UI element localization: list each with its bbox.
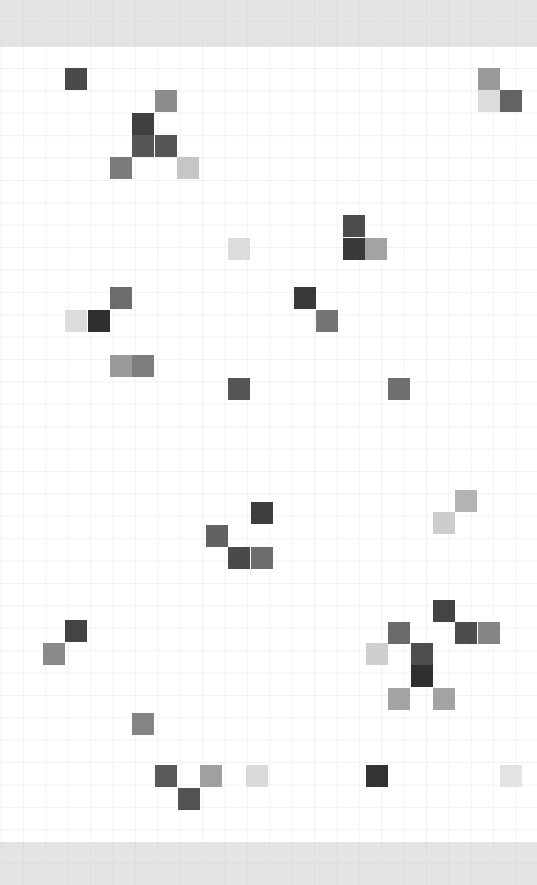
heatmap-cell [455,490,477,512]
heatmap-cell [433,600,455,622]
heatmap-cell [110,287,132,309]
heatmap-cell [365,238,387,260]
heatmap-cell [316,310,338,332]
heatmap-cell [500,90,522,112]
gridlines [0,47,537,842]
top-band-gridlines [0,0,537,47]
heatmap-cell [177,157,199,179]
heatmap-cell [43,643,65,665]
heatmap-cell [155,90,177,112]
heatmap-cell [110,157,132,179]
heatmap-cell [228,547,250,569]
heatmap-cell [251,502,273,524]
heatmap-cell [132,355,154,377]
heatmap-cell [132,113,154,135]
heatmap-cell [478,68,500,90]
heatmap-cell [388,378,410,400]
heatmap-cell [500,765,522,787]
heatmap-cell [294,287,316,309]
heatmap-cell [411,643,433,665]
heatmap-cell [65,620,87,642]
bottom-band [0,842,537,885]
heatmap-cell [411,665,433,687]
heatmap-cell [65,310,87,332]
heatmap-cell [155,765,177,787]
top-band [0,0,537,47]
heatmap-cell [88,310,110,332]
heatmap-cell [178,788,200,810]
heatmap-cell [228,378,250,400]
heatmap-cell [343,238,365,260]
heatmap-cell [200,765,222,787]
heatmap-cell [110,355,132,377]
heatmap-cell [478,90,500,112]
heatmap-cell [455,622,477,644]
heatmap-cell [433,512,455,534]
heatmap-cell [366,765,388,787]
heatmap-cell [65,68,87,90]
heatmap-cell [366,643,388,665]
heatmap-cell [433,688,455,710]
heatmap-cell [388,622,410,644]
heatmap-cell [228,238,250,260]
bottom-band-gridlines [0,842,537,885]
heatmap-plot-area [0,47,537,842]
heatmap-canvas [0,0,537,885]
heatmap-cell [343,215,365,237]
heatmap-cell [246,765,268,787]
heatmap-cell [251,547,273,569]
heatmap-cell [132,713,154,735]
heatmap-cell [388,688,410,710]
heatmap-cell [478,622,500,644]
heatmap-cell [206,525,228,547]
heatmap-cell [132,135,154,157]
heatmap-cell [155,135,177,157]
